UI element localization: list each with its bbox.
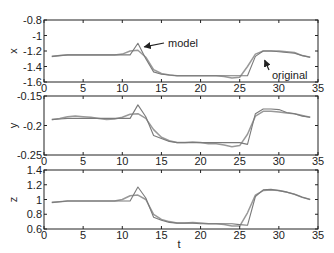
- x-tick-label: 15: [155, 229, 167, 241]
- x-tick-label: 30: [273, 155, 285, 167]
- y-tick-label: -1.6: [23, 76, 42, 88]
- y-tick-label: 1.2: [27, 179, 42, 191]
- x-tick-label: 10: [116, 229, 128, 241]
- arrow-icon: [265, 60, 269, 70]
- x-tick-label: 35: [312, 229, 324, 241]
- y-tick-label: -0.25: [17, 149, 42, 161]
- x-tick-label: 35: [312, 155, 324, 167]
- x-tick-label: 5: [80, 155, 86, 167]
- x-tick-label: 35: [312, 82, 324, 94]
- annotation-model: model: [168, 37, 198, 49]
- y-axis-label: x: [7, 48, 19, 54]
- x-tick-label: 20: [194, 229, 206, 241]
- x-tick-label: 30: [273, 82, 285, 94]
- arrow-icon: [144, 43, 164, 47]
- y-tick-label: -1.2: [23, 45, 42, 57]
- panel-x: 05101520253035-0.8-1-1.2-1.4-1.6x: [7, 14, 324, 94]
- x-tick-label: 10: [116, 155, 128, 167]
- series-original: [52, 111, 310, 146]
- series-model: [52, 187, 310, 225]
- x-tick-label: 10: [116, 82, 128, 94]
- y-axis-label: z: [7, 197, 19, 203]
- x-axis-label: t: [177, 238, 180, 250]
- y-tick-label: 0.6: [27, 223, 42, 235]
- x-tick-label: 5: [80, 229, 86, 241]
- x-tick-label: 20: [194, 82, 206, 94]
- x-tick-label: 5: [80, 82, 86, 94]
- axes-box: [44, 96, 318, 155]
- y-tick-label: -1: [32, 30, 42, 42]
- panel-y: 05101520253035-0.15-0.2-0.25y: [7, 90, 324, 167]
- x-tick-label: 30: [273, 229, 285, 241]
- y-axis-label: y: [7, 122, 19, 128]
- y-tick-label: -0.15: [17, 90, 42, 102]
- x-tick-label: 25: [234, 155, 246, 167]
- x-tick-label: 25: [234, 229, 246, 241]
- y-tick-label: -1.4: [23, 61, 42, 73]
- figure: 05101520253035-0.8-1-1.2-1.4-1.6x 051015…: [0, 0, 334, 253]
- panel-z: 051015202530351.41.210.80.6zt: [7, 164, 324, 250]
- y-tick-label: 1: [36, 194, 42, 206]
- x-tick-label: 15: [155, 82, 167, 94]
- y-tick-label: -0.2: [23, 120, 42, 132]
- x-tick-label: 15: [155, 155, 167, 167]
- x-tick-label: 25: [234, 82, 246, 94]
- axes-box: [44, 170, 318, 229]
- annotation-original: original: [272, 69, 307, 81]
- y-tick-label: 1.4: [27, 164, 42, 176]
- y-tick-label: 0.8: [27, 208, 42, 220]
- y-tick-label: -0.8: [23, 14, 42, 26]
- series-original: [52, 190, 310, 226]
- x-tick-label: 20: [194, 155, 206, 167]
